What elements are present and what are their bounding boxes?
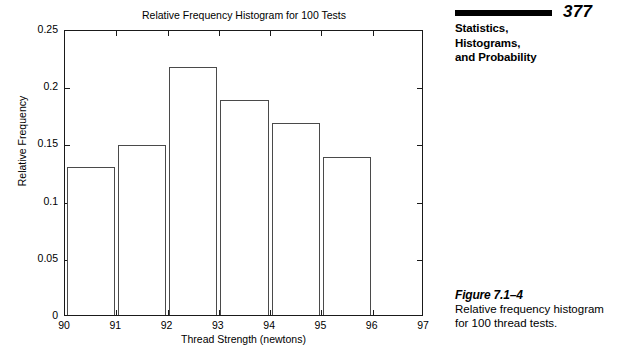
x-axis-title: Thread Strength (newtons) bbox=[64, 333, 423, 345]
y-axis-title: Relative Frequency bbox=[16, 81, 28, 201]
page-furniture: 377 Statistics, Histograms, and Probabil… bbox=[455, 0, 623, 358]
histogram-bar bbox=[118, 145, 166, 315]
x-tick-label: 93 bbox=[198, 319, 238, 331]
histogram-bar bbox=[67, 167, 115, 315]
x-tick-label: 95 bbox=[300, 319, 340, 331]
figure-caption: Figure 7.1–4 Relative frequency histogra… bbox=[455, 288, 615, 330]
x-tick-label: 97 bbox=[403, 319, 443, 331]
x-tick-label: 92 bbox=[147, 319, 187, 331]
bars-layer bbox=[65, 31, 422, 315]
chart-title: Relative Frequency Histogram for 100 Tes… bbox=[64, 9, 424, 21]
figure-page: Relative Frequency Histogram for 100 Tes… bbox=[0, 0, 623, 358]
x-tick-label: 96 bbox=[352, 319, 392, 331]
running-head-line-1: Statistics, bbox=[455, 21, 623, 36]
header-rule bbox=[455, 10, 552, 16]
running-head: 377 Statistics, Histograms, and Probabil… bbox=[455, 6, 623, 65]
histogram-bar bbox=[323, 157, 371, 315]
page-number: 377 bbox=[563, 2, 592, 22]
y-tick-label: 0.25 bbox=[14, 23, 58, 35]
histogram-bar bbox=[220, 100, 268, 315]
y-tick-label: 0.05 bbox=[14, 252, 58, 264]
x-tick-label: 94 bbox=[249, 319, 289, 331]
running-head-line-3: and Probability bbox=[455, 50, 623, 65]
figure-caption-text: Relative frequency histogram for 100 thr… bbox=[455, 302, 615, 330]
histogram-bar bbox=[272, 123, 320, 315]
y-tick-label: 0 bbox=[14, 309, 58, 321]
figure-label: Figure 7.1–4 bbox=[455, 288, 615, 302]
histogram-bar bbox=[169, 67, 217, 315]
x-tick-label: 91 bbox=[95, 319, 135, 331]
plot-area bbox=[64, 30, 423, 316]
running-head-line-2: Histograms, bbox=[455, 36, 623, 51]
running-head-title: Statistics, Histograms, and Probability bbox=[455, 21, 623, 65]
histogram-figure: Relative Frequency Histogram for 100 Tes… bbox=[0, 0, 455, 358]
